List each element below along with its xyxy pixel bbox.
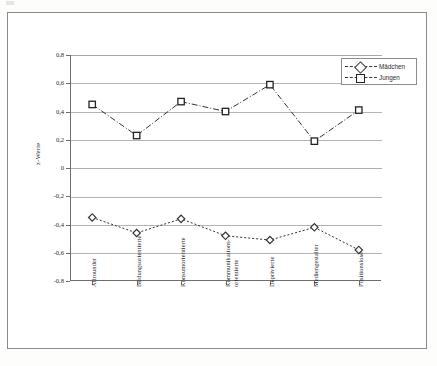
- data-point-square: [222, 108, 228, 114]
- x-category-label: Kommunikations-: [224, 239, 231, 287]
- y-tick-mark: [66, 281, 70, 282]
- y-tick-label: 0,6: [38, 79, 64, 86]
- x-category-label: Mediengestalter: [312, 244, 319, 287]
- chart-page: z-Werte 0,80,60,40,20-0,2-0,4-0,6-0,8 Al…: [0, 0, 437, 366]
- x-category-label: orientierte: [232, 259, 239, 287]
- chart-legend: Mädchen Jungen: [341, 58, 417, 85]
- y-tick-label: -0,6: [38, 249, 64, 256]
- data-point-square: [311, 138, 317, 144]
- data-point-square: [133, 132, 139, 138]
- data-point-diamond: [266, 236, 273, 243]
- x-category-label: Bildungsorientierte: [135, 236, 142, 287]
- legend-item-jungen: Jungen: [345, 72, 413, 83]
- y-tick-label: -0,2: [38, 192, 64, 199]
- x-category-label: Deprivierte: [268, 257, 275, 287]
- square-marker-icon: [345, 72, 377, 83]
- data-point-diamond: [89, 214, 96, 221]
- legend-item-maedchen: Mädchen: [345, 61, 413, 72]
- y-tick-label: 0,2: [38, 136, 64, 143]
- legend-label-maedchen: Mädchen: [377, 63, 405, 70]
- scan-artifact-top: [6, 1, 14, 5]
- y-tick-label: 0,8: [38, 51, 64, 58]
- data-point-square: [178, 98, 184, 104]
- data-point-diamond: [177, 215, 184, 222]
- x-category-label: Positionslose: [357, 252, 364, 287]
- data-point-square: [356, 107, 362, 113]
- diamond-marker-icon: [345, 61, 377, 72]
- data-point-square: [267, 81, 273, 87]
- legend-label-jungen: Jungen: [377, 74, 400, 81]
- y-tick-label: -0,4: [38, 221, 64, 228]
- data-point-square: [89, 101, 95, 107]
- data-point-diamond: [311, 224, 318, 231]
- y-tick-label: 0: [38, 164, 64, 171]
- chart-frame: z-Werte 0,80,60,40,20-0,2-0,4-0,6-0,8 Al…: [7, 12, 427, 349]
- y-tick-label: 0,4: [38, 108, 64, 115]
- x-category-label: Konsumorientierte: [179, 237, 186, 287]
- y-tick-label: -0,8: [38, 277, 64, 284]
- y-axis-title: z-Werte: [34, 142, 41, 165]
- x-category-label: Allrounder: [90, 258, 97, 287]
